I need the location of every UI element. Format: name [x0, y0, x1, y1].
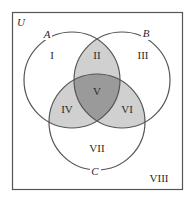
venn-diagram: U A B C I II III IV V VI VII VIII: [0, 0, 194, 198]
set-b-label: B: [143, 27, 150, 39]
region-vii-label: VII: [89, 142, 105, 154]
region-viii-label: VIII: [150, 172, 169, 184]
set-a-label: A: [43, 28, 51, 40]
region-v-label: V: [93, 85, 101, 97]
set-c-label: C: [91, 165, 99, 177]
region-ii-label: II: [93, 49, 101, 61]
region-iv-label: IV: [61, 103, 73, 115]
universe-label: U: [17, 16, 26, 28]
region-iii-label: III: [138, 49, 149, 61]
region-vi-label: VI: [121, 103, 133, 115]
region-i-label: I: [50, 49, 54, 61]
